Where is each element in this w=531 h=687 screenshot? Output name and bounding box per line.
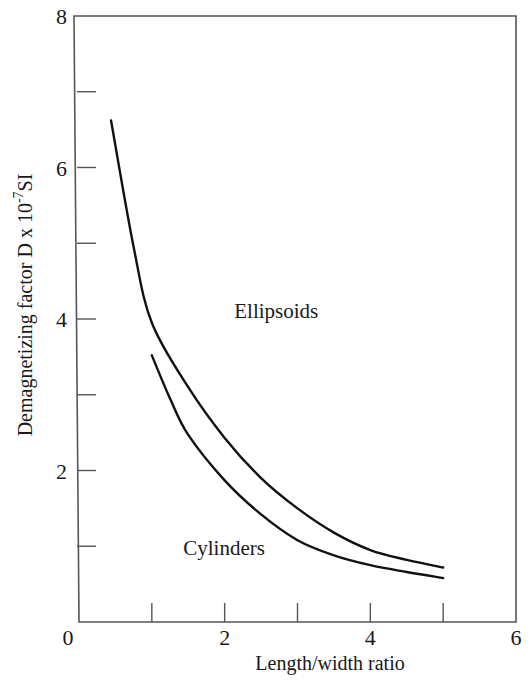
y-axis-title: Demagnetizing factor D x 10-7SI <box>11 174 37 437</box>
x-tick-label: 6 <box>511 625 522 650</box>
y-axis-title-superscript: -7 <box>11 191 26 203</box>
series-labels: EllipsoidsCylinders <box>183 299 318 559</box>
y-tick-label: 2 <box>56 459 67 484</box>
x-axis-title: Length/width ratio <box>255 652 404 675</box>
y-tick-label: 4 <box>56 307 67 332</box>
series-line-ellipsoids <box>111 121 443 568</box>
tick-labels: 24680246 <box>56 4 522 650</box>
y-axis-title-unit: SI <box>14 174 36 192</box>
label-ellipsoids: Ellipsoids <box>234 299 318 323</box>
y-tick-label: 6 <box>56 156 67 181</box>
y-tick-label: 8 <box>56 4 67 29</box>
data-series <box>111 121 443 579</box>
x-tick-label: 4 <box>365 625 376 650</box>
chart: 24680246 EllipsoidsCylinders Length/widt… <box>0 0 531 687</box>
x-tick-label: 0 <box>63 625 74 650</box>
x-tick-label: 2 <box>219 625 230 650</box>
label-cylinders: Cylinders <box>183 536 265 560</box>
y-axis-title-main: Demagnetizing factor D x 10 <box>14 203 37 436</box>
